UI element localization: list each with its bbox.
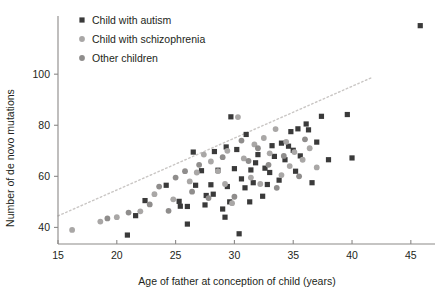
data-point-circle [248, 175, 254, 181]
data-point-square [253, 160, 258, 165]
data-point-circle [173, 175, 179, 181]
data-point-circle [283, 139, 289, 145]
data-point-circle [273, 126, 279, 132]
data-point-circle [194, 170, 200, 176]
x-tick-label: 30 [229, 249, 241, 261]
data-point-circle [147, 202, 153, 208]
legend-marker-circle [79, 36, 85, 42]
data-point-square [314, 140, 319, 145]
data-point-square [326, 157, 331, 162]
y-tick-label: 40 [38, 221, 50, 233]
data-point-circle [126, 210, 132, 216]
data-point-circle [291, 149, 297, 155]
data-point-square [319, 114, 324, 119]
data-point-square [345, 112, 350, 117]
data-point-square [260, 194, 265, 199]
data-point-circle [279, 172, 285, 178]
data-point-circle [104, 216, 110, 222]
data-point-circle [208, 159, 214, 165]
data-point-circle [300, 157, 306, 163]
data-point-square [208, 182, 213, 187]
data-point-square [247, 199, 252, 204]
y-axis-label: Number of de novo mutations [4, 89, 16, 227]
y-tick-label: 80 [38, 119, 50, 131]
data-point-circle [196, 162, 202, 168]
data-point-circle [215, 168, 221, 174]
data-point-circle [182, 168, 188, 174]
data-point-circle [232, 194, 238, 200]
data-point-square [309, 180, 314, 185]
data-point-square [133, 213, 138, 218]
data-point-circle [235, 114, 241, 120]
data-point-square [418, 23, 423, 28]
scatter-plot-figure: 40608010015202530354045 Child with autis… [0, 0, 437, 295]
data-point-square [349, 155, 354, 160]
data-point-square [177, 199, 182, 204]
data-point-square [255, 152, 260, 157]
data-point-square [251, 180, 256, 185]
data-point-circle [166, 208, 172, 214]
data-point-square [164, 183, 169, 188]
data-point-square [234, 147, 239, 152]
data-point-circle [189, 189, 195, 195]
data-point-circle [220, 154, 226, 160]
data-point-circle [137, 208, 143, 214]
data-point-circle [97, 219, 103, 225]
data-point-square [242, 185, 247, 190]
data-point-square [185, 204, 190, 209]
data-point-square [211, 192, 216, 197]
legend-label: Child with autism [92, 14, 172, 26]
data-point-circle [314, 164, 320, 170]
x-tick-label: 40 [346, 249, 358, 261]
data-point-square [267, 170, 272, 175]
data-point-circle [257, 181, 263, 187]
data-point-square [293, 169, 298, 174]
data-point-circle [206, 195, 212, 201]
data-point-square [279, 141, 284, 146]
data-point-circle [266, 162, 272, 168]
data-point-square [272, 154, 277, 159]
data-point-square [178, 204, 183, 209]
data-point-square [220, 206, 225, 211]
data-point-square [265, 182, 270, 187]
data-point-circle [69, 227, 75, 233]
legend-item-2: Child with schizophrenia [79, 33, 205, 45]
data-point-square [212, 149, 217, 154]
y-tick-label: 100 [32, 68, 50, 80]
legend-item-1: Child with autism [79, 14, 171, 26]
data-point-square [228, 114, 233, 119]
data-point-circle [307, 145, 313, 151]
data-point-square [142, 198, 147, 203]
chart-canvas: 40608010015202530354045 Child with autis… [0, 0, 437, 295]
x-tick-label: 25 [170, 249, 182, 261]
data-point-square [232, 166, 237, 171]
data-point-circle [267, 150, 273, 156]
data-point-square [191, 149, 196, 154]
data-point-square [244, 132, 249, 137]
data-point-circle [296, 173, 302, 179]
data-point-circle [281, 153, 287, 159]
data-point-circle [302, 136, 308, 142]
data-point-circle [187, 179, 193, 185]
data-point-circle [246, 158, 252, 164]
data-point-square [185, 221, 190, 226]
data-point-square [125, 232, 130, 237]
data-point-circle [255, 145, 261, 151]
data-point-square [237, 231, 242, 236]
x-tick-label: 20 [111, 249, 123, 261]
data-point-square [288, 129, 293, 134]
data-point-square [239, 176, 244, 181]
legend-label: Other children [92, 52, 158, 64]
x-tick-label: 45 [405, 249, 417, 261]
legend-marker-circle [79, 55, 85, 61]
legend-marker-square [79, 17, 84, 22]
chart-background [0, 0, 437, 295]
data-point-square [222, 215, 227, 220]
data-point-circle [224, 148, 230, 154]
data-point-square [304, 121, 309, 126]
data-point-circle [229, 200, 235, 206]
data-point-circle [274, 185, 280, 191]
data-point-circle [287, 163, 293, 169]
data-point-square [277, 178, 282, 183]
legend-label: Child with schizophrenia [92, 33, 205, 45]
